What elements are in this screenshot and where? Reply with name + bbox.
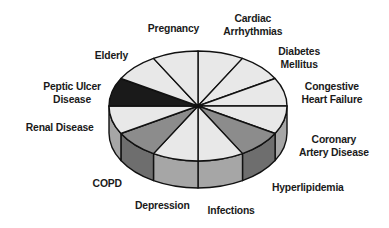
pie-top-slices xyxy=(109,51,287,161)
label-line: Cardiac xyxy=(223,12,282,25)
label-copd: COPD xyxy=(93,177,122,190)
label-coronary-artery-disease: Coronary Artery Disease xyxy=(299,133,369,159)
label-hyperlipidemia: Hyperlipidemia xyxy=(272,181,344,194)
label-line: Diabetes xyxy=(278,45,320,58)
label-renal-disease: Renal Disease xyxy=(26,121,94,134)
label-depression: Depression xyxy=(135,199,190,212)
label-cardiac-arrhythmias: Cardiac Arrhythmias xyxy=(223,12,282,38)
label-line: Peptic Ulcer xyxy=(43,80,101,93)
label-line: Artery Disease xyxy=(299,146,369,159)
label-congestive-heart-failure: Congestive Heart Failure xyxy=(301,80,362,106)
label-diabetes-mellitus: Diabetes Mellitus xyxy=(278,45,320,71)
label-line: Heart Failure xyxy=(301,93,362,106)
label-line: Disease xyxy=(43,93,101,106)
label-line: Congestive xyxy=(301,80,362,93)
label-line: Coronary xyxy=(299,133,369,146)
label-elderly: Elderly xyxy=(95,49,128,62)
label-line: Arrhythmias xyxy=(223,25,282,38)
label-peptic-ulcer-disease: Peptic Ulcer Disease xyxy=(43,80,101,106)
label-infections: Infections xyxy=(208,204,255,217)
label-line: Mellitus xyxy=(278,58,320,71)
label-pregnancy: Pregnancy xyxy=(148,22,199,35)
